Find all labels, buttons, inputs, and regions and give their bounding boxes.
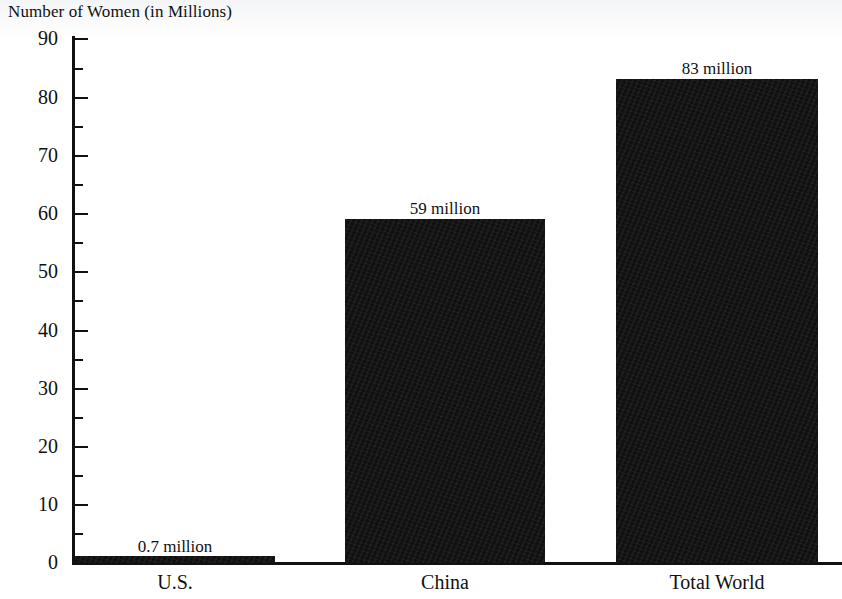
y-tick-minor [75, 184, 83, 186]
bar-china[interactable] [345, 219, 545, 563]
bar-us[interactable] [75, 556, 275, 563]
y-tick-label: 30 [14, 378, 58, 398]
y-tick-label: 10 [14, 494, 58, 514]
y-tick-major [75, 504, 88, 506]
y-tick-major [75, 388, 88, 390]
y-tick-minor [75, 68, 83, 70]
y-tick-minor [75, 242, 83, 244]
y-tick-minor [75, 359, 83, 361]
bar-value-label: 59 million [345, 200, 545, 217]
x-axis-label-us: U.S. [75, 572, 275, 592]
y-tick-major [75, 213, 88, 215]
y-tick-label: 0 [14, 552, 58, 572]
y-tick-major [75, 271, 88, 273]
bar-total-world[interactable] [616, 79, 818, 563]
y-tick-label: 40 [14, 320, 58, 340]
y-tick-minor [75, 417, 83, 419]
y-tick-major [75, 155, 88, 157]
bar-value-label: 83 million [616, 60, 818, 77]
y-tick-minor [75, 475, 83, 477]
y-tick-minor [75, 300, 83, 302]
y-tick-label: 60 [14, 203, 58, 223]
y-tick-major [75, 330, 88, 332]
y-tick-label: 50 [14, 261, 58, 281]
y-tick-major [75, 446, 88, 448]
y-tick-major [75, 38, 88, 40]
y-tick-minor [75, 533, 83, 535]
y-tick-label: 90 [14, 28, 58, 48]
x-axis-label-china: China [345, 572, 545, 592]
bar-chart: 0 10 20 30 40 50 60 70 80 90 0.7 million… [0, 0, 842, 599]
y-tick-label: 80 [14, 87, 58, 107]
y-tick-label: 70 [14, 145, 58, 165]
y-tick-major [75, 97, 88, 99]
x-axis-label-total-world: Total World [616, 572, 818, 592]
y-tick-minor [75, 126, 83, 128]
y-tick-label: 20 [14, 436, 58, 456]
bar-value-label: 0.7 million [75, 538, 275, 555]
